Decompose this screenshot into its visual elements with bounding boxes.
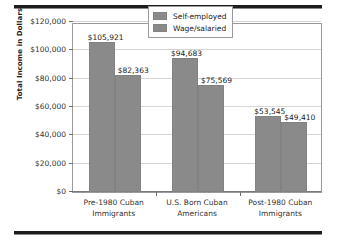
- x-axis-category-line: U.S. Born Cuban: [155, 197, 238, 208]
- x-axis-category-line: Post-1980 Cuban: [239, 197, 322, 208]
- x-tick-mark: [240, 192, 241, 196]
- legend-item[interactable]: Self-employed: [153, 10, 227, 22]
- chart-legend: Self-employedWage/salaried: [148, 6, 233, 38]
- legend-item[interactable]: Wage/salaried: [153, 22, 227, 34]
- x-axis-labels: Pre-1980 CubanImmigrantsU.S. Born CubanA…: [72, 197, 322, 229]
- bar[interactable]: $94,683: [172, 58, 198, 192]
- x-axis-category-line: Immigrants: [239, 208, 322, 219]
- y-tick-label: $20,000: [35, 159, 66, 168]
- y-tick-mark: [69, 78, 73, 79]
- x-axis-category-label: Post-1980 CubanImmigrants: [239, 197, 322, 229]
- y-tick-label: $0: [56, 187, 66, 196]
- legend-swatch-icon: [153, 12, 167, 20]
- bar-value-label: $82,363: [118, 66, 149, 75]
- x-axis-category-line: Immigrants: [72, 208, 155, 219]
- y-tick-label: $80,000: [35, 74, 66, 83]
- y-tick-mark: [69, 191, 73, 192]
- y-tick-label: $100,000: [30, 45, 66, 54]
- legend-label: Wage/salaried: [173, 24, 226, 33]
- plot-area: $0$20,000$40,000$60,000$80,000$100,000$1…: [72, 23, 322, 193]
- bar-value-label: $49,410: [284, 113, 315, 122]
- bar-value-label: $105,921: [88, 33, 124, 42]
- y-tick-mark: [69, 21, 73, 22]
- bar[interactable]: $75,569: [198, 85, 224, 192]
- x-axis-category-label: Pre-1980 CubanImmigrants: [72, 197, 155, 229]
- bottom-divider-rule: [14, 231, 322, 234]
- bar[interactable]: $53,545: [255, 116, 281, 192]
- chart-figure: Total Income in Dollars $0$20,000$40,000…: [0, 0, 337, 243]
- bar-value-label: $75,569: [201, 76, 232, 85]
- y-tick-mark: [69, 134, 73, 135]
- y-tick-label: $60,000: [35, 102, 66, 111]
- y-tick-label: $40,000: [35, 130, 66, 139]
- bar-group: $94,683$75,569: [172, 24, 224, 192]
- y-tick-label: $120,000: [30, 17, 66, 26]
- bar-group: $105,921$82,363: [89, 24, 141, 192]
- y-tick-mark: [69, 49, 73, 50]
- x-axis-category-line: Americans: [155, 208, 238, 219]
- bar[interactable]: $105,921: [89, 42, 115, 192]
- legend-swatch-icon: [153, 24, 167, 32]
- legend-label: Self-employed: [173, 12, 227, 21]
- x-tick-mark: [156, 192, 157, 196]
- x-axis-category-line: Pre-1980 Cuban: [72, 197, 155, 208]
- y-tick-mark: [69, 106, 73, 107]
- bar-group: $53,545$49,410: [255, 24, 307, 192]
- x-axis-category-label: U.S. Born CubanAmericans: [155, 197, 238, 229]
- bar[interactable]: $82,363: [115, 75, 141, 192]
- y-axis-title: Total Income in Dollars: [16, 0, 24, 114]
- bar-value-label: $94,683: [171, 49, 202, 58]
- y-tick-mark: [69, 163, 73, 164]
- bar[interactable]: $49,410: [281, 122, 307, 192]
- bar-value-label: $53,545: [254, 107, 285, 116]
